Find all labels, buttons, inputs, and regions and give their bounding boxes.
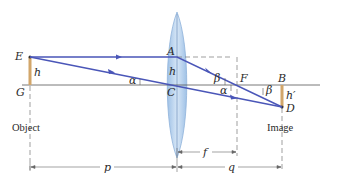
label-q: q xyxy=(228,161,235,174)
label-F: F xyxy=(239,72,248,85)
label-E: E xyxy=(14,50,23,63)
dimension-p xyxy=(30,163,176,171)
label-G: G xyxy=(16,86,25,99)
label-lens-height: h xyxy=(169,65,176,78)
label-object-height: h xyxy=(34,66,41,79)
label-alpha-left: α xyxy=(129,74,137,87)
label-alpha-right: α xyxy=(220,84,228,97)
label-A: A xyxy=(166,45,175,58)
image-arrow xyxy=(281,85,284,109)
label-D: D xyxy=(285,102,295,115)
object-arrow xyxy=(29,56,32,86)
label-f: f xyxy=(202,146,209,159)
label-beta-right: β xyxy=(265,84,272,97)
label-p: p xyxy=(104,161,111,174)
caption-image: Image xyxy=(267,122,294,133)
thin-lens-diagram: E G A C F B D h h h′ α β α β Object Imag… xyxy=(0,0,342,185)
label-image-height: h′ xyxy=(286,89,296,102)
label-B: B xyxy=(277,72,286,85)
label-C: C xyxy=(167,86,176,99)
caption-object: Object xyxy=(12,122,40,133)
